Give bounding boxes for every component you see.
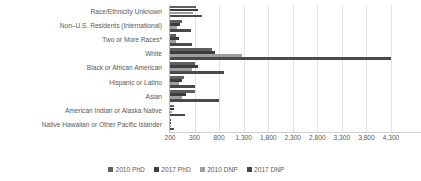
legend-item[interactable]: 2017 DNP bbox=[247, 166, 285, 173]
category-axis-labels: Race/Ethnicity UnknownNon–U.S. Residents… bbox=[0, 5, 166, 132]
legend-item[interactable]: 2017 PhD bbox=[154, 166, 191, 173]
legend-label: 2010 PhD bbox=[116, 166, 145, 173]
category-label: Non–U.S. Residents (International) bbox=[60, 19, 162, 33]
bar bbox=[170, 15, 202, 18]
category-label: Race/Ethnicity Unknown bbox=[91, 5, 162, 19]
legend-swatch-icon bbox=[154, 167, 159, 172]
legend-item[interactable]: 2010 DNP bbox=[200, 166, 238, 173]
bar bbox=[170, 128, 174, 131]
legend-swatch-icon bbox=[108, 167, 113, 172]
value-axis-tick-labels: 2003008001,3001,8002,3002,8003,3003,8004… bbox=[0, 134, 416, 146]
legend-swatch-icon bbox=[200, 167, 205, 172]
value-tick-label: 2,800 bbox=[309, 134, 326, 141]
plot-area bbox=[170, 5, 391, 132]
value-tick-label: 2,300 bbox=[285, 134, 302, 141]
category-label: Asian bbox=[146, 90, 163, 104]
value-tick-label: 200 bbox=[164, 134, 175, 141]
legend-item[interactable]: 2010 PhD bbox=[108, 166, 145, 173]
bar-group bbox=[170, 76, 391, 90]
bar bbox=[170, 57, 391, 60]
category-label: Black or African American bbox=[87, 61, 162, 75]
legend-label: 2010 DNP bbox=[207, 166, 237, 173]
category-label: White bbox=[145, 47, 162, 61]
legend-label: 2017 DNP bbox=[254, 166, 284, 173]
bar-group bbox=[170, 47, 391, 61]
bar-group bbox=[170, 61, 391, 75]
bar-group bbox=[170, 118, 391, 132]
category-label: American Indian or Alaska Native bbox=[65, 104, 162, 118]
value-tick-label: 1,300 bbox=[235, 134, 252, 141]
category-label: Hispanic or Latino bbox=[109, 76, 162, 90]
bar-group bbox=[170, 90, 391, 104]
bar bbox=[170, 29, 191, 32]
legend-label: 2017 PhD bbox=[161, 166, 190, 173]
category-label: Two or More Races* bbox=[102, 33, 162, 47]
category-label: Native Hawaiian or Other Pacific Islande… bbox=[42, 118, 162, 132]
bar-group bbox=[170, 33, 391, 47]
bar-group bbox=[170, 19, 391, 33]
value-tick-label: 300 bbox=[189, 134, 200, 141]
legend-swatch-icon bbox=[247, 167, 252, 172]
category-axis-line bbox=[169, 132, 421, 133]
chart-legend: 2010 PhD2017 PhD2010 DNP2017 DNP bbox=[108, 163, 285, 175]
value-tick-label: 3,300 bbox=[334, 134, 351, 141]
bar bbox=[170, 114, 185, 117]
value-tick-label: 4,300 bbox=[383, 134, 400, 141]
bar-group bbox=[170, 104, 391, 118]
bar-group bbox=[170, 5, 391, 19]
gridline bbox=[391, 5, 392, 132]
bar bbox=[170, 43, 192, 46]
bar bbox=[170, 71, 224, 74]
bar bbox=[170, 85, 195, 88]
bar bbox=[170, 99, 219, 102]
value-tick-label: 3,800 bbox=[358, 134, 375, 141]
value-tick-label: 1,800 bbox=[260, 134, 277, 141]
value-tick-label: 800 bbox=[214, 134, 225, 141]
